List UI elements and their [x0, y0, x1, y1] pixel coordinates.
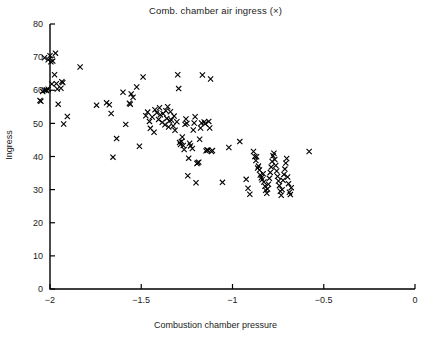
svg-text:0: 0 [38, 284, 43, 294]
y-axis-label: Ingress [4, 115, 14, 175]
svg-text:10: 10 [33, 251, 43, 261]
svg-text:20: 20 [33, 218, 43, 228]
scatter-plot-figure: Comb. chamber air ingress (×) Ingress Co… [0, 0, 431, 341]
svg-text:−2: −2 [45, 295, 55, 305]
axes [50, 24, 415, 289]
svg-text:50: 50 [33, 119, 43, 129]
chart-title: Comb. chamber air ingress (×) [0, 5, 431, 16]
svg-text:−0.5: −0.5 [315, 295, 333, 305]
svg-text:80: 80 [33, 19, 43, 29]
svg-text:−1: −1 [227, 295, 237, 305]
x-axis-label: Combustion chamber pressure [0, 320, 431, 330]
svg-text:40: 40 [33, 152, 43, 162]
svg-text:−1.5: −1.5 [132, 295, 150, 305]
axis-ticks [50, 24, 415, 289]
data-points [37, 51, 311, 198]
svg-text:30: 30 [33, 185, 43, 195]
axis-tick-labels: 01020304050607080−2−1.5−1−0.50 [33, 19, 418, 305]
plot-canvas: 01020304050607080−2−1.5−1−0.50 [0, 0, 431, 341]
svg-text:70: 70 [33, 52, 43, 62]
svg-text:0: 0 [412, 295, 417, 305]
